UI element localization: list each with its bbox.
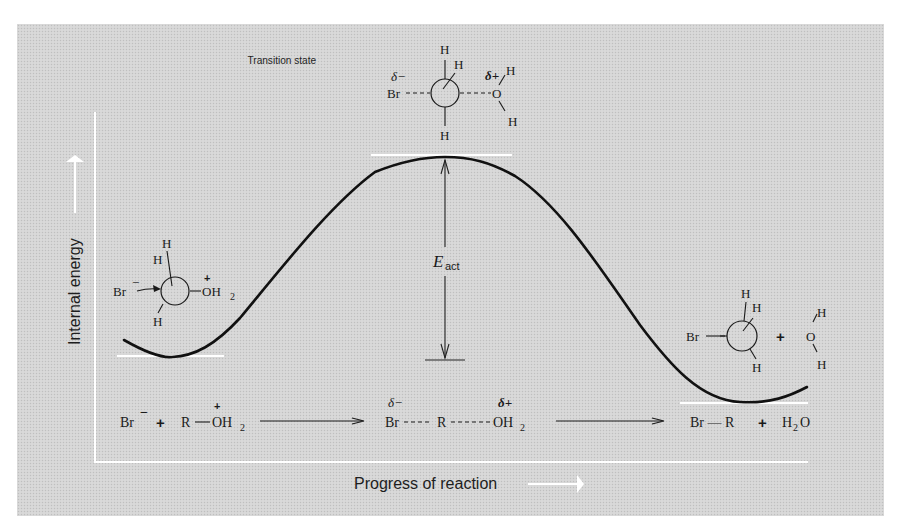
attack-arrow-icon (153, 285, 161, 292)
charge-minus: − (140, 405, 148, 420)
charge-plus: + (204, 272, 210, 284)
plus-sign: + (776, 328, 785, 345)
br-label: Br (387, 86, 401, 101)
h-label: H (752, 360, 761, 375)
product-structure: H H H Br + O H H (686, 286, 826, 375)
energy-curve (124, 157, 807, 402)
h-label: H (454, 57, 463, 72)
x-axis-label: Progress of reaction (354, 475, 497, 492)
h-label: H (153, 252, 162, 267)
charge-plus: + (214, 400, 220, 412)
plus-sign: + (156, 414, 165, 431)
br-label: Br (120, 415, 134, 430)
carbon-circle (431, 79, 459, 107)
br-label: Br (113, 284, 127, 299)
energy-diagram: Internal energy Progress of reaction E a… (0, 0, 901, 530)
y-axis-label-group: Internal energy (66, 155, 84, 345)
energy-levels (117, 155, 808, 403)
oh2-label: OH (493, 415, 513, 430)
subscript: 2 (793, 422, 798, 433)
subscript: 2 (240, 422, 245, 433)
reactant-structure: H H H Br − OH 2 + (113, 236, 235, 329)
delta-plus: δ+ (498, 395, 512, 410)
h-label: H (162, 236, 171, 251)
delta-minus: δ− (388, 395, 403, 410)
r-label: R (181, 415, 191, 430)
carbon-circle (727, 321, 757, 351)
eact-symbol: E (432, 252, 444, 271)
transition-state-structure: H H H Br δ− O δ+ H H (387, 42, 517, 143)
h-label: H (782, 415, 792, 430)
charge-minus: − (132, 275, 139, 290)
transition-state-label: Transition state (247, 54, 316, 66)
y-axis-label: Internal energy (66, 238, 83, 345)
r-label: R (437, 415, 447, 430)
subscript: 2 (520, 422, 525, 433)
h-label: H (752, 300, 761, 315)
arrow-right-icon (577, 475, 584, 493)
o-label: O (806, 329, 815, 344)
h-label: H (508, 114, 517, 129)
h-label: H (153, 314, 162, 329)
h-label: H (741, 286, 750, 301)
subscript: 2 (230, 291, 235, 302)
h-label: H (817, 357, 826, 372)
o-label: O (800, 415, 810, 430)
x-axis-label-group: Progress of reaction (354, 475, 584, 493)
br-label: Br (686, 329, 700, 344)
h-label: H (506, 63, 515, 78)
h-label: H (440, 128, 449, 143)
oh2-label: OH (202, 284, 221, 299)
br-r-label: Br — R (690, 415, 735, 430)
plus-sign: + (758, 414, 767, 431)
carbon-circle (161, 277, 189, 305)
delta-plus: δ+ (485, 68, 499, 83)
oh2-label: OH (212, 415, 232, 430)
arrow-up-icon (66, 155, 84, 162)
activation-energy-arrow: E act (425, 160, 465, 360)
h-label: H (817, 305, 826, 320)
h-label: H (440, 42, 449, 57)
delta-minus: δ− (391, 69, 406, 84)
o-label: O (492, 86, 501, 101)
eact-subscript: act (445, 260, 460, 272)
reaction-equation: Br − + R OH 2 + δ− Br R OH 2 δ+ Br — R +… (120, 395, 810, 433)
br-label: Br (385, 415, 399, 430)
